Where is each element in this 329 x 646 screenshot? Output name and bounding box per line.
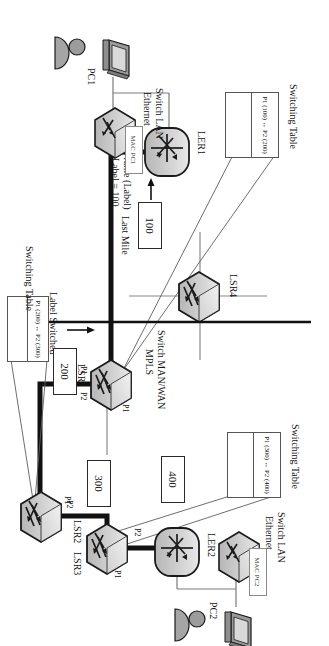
node-label-lsr3: LSR3 xyxy=(72,552,83,575)
frame-label-200: 200 xyxy=(53,348,77,395)
annotation-lsp-1: Label Switched xyxy=(48,292,59,354)
port-label-lsr3-p2: P2 xyxy=(132,528,143,536)
switching-table-row: P1 (100) ↔ P2 (200) xyxy=(252,93,279,157)
switching-table-row: P1 (300) ↔ P2 (400) xyxy=(254,433,281,497)
node-label-lsr2: LSR2 xyxy=(72,520,83,543)
switching-table-lsr3: P1 (300) ↔ P2 (400) xyxy=(227,432,281,498)
diagram-canvas: LER1 LER2 LSR1 LSR2 LSR3 LSR4 PC1 PC2 Sw… xyxy=(0,0,329,646)
switching-table-title-lsr3: Switching Table xyxy=(290,424,301,489)
ler2-icon xyxy=(155,528,199,576)
lsr4-icon xyxy=(179,272,219,322)
lsr1-icon xyxy=(91,360,131,410)
zone-label-wan-2: MPLS xyxy=(144,349,155,375)
frame-label-100: 100 xyxy=(138,202,162,249)
pc1-user-icon xyxy=(55,37,85,69)
mac-box-pc2: MAC PC2 xyxy=(249,548,267,596)
pc1-icon xyxy=(103,40,129,79)
switching-table-title-lsr1: Switching Table xyxy=(288,84,299,149)
zone-label-lan-top-2: Ethernet xyxy=(264,516,275,550)
frame-label-arrow-icon xyxy=(148,178,155,200)
port-label-lsr1-p1: P1 xyxy=(78,366,89,374)
port-label-lsr2-p2: P2 xyxy=(64,500,75,508)
node-label-lsr4: LSR4 xyxy=(228,274,239,297)
frame-label-400: 400 xyxy=(161,456,185,503)
switching-table-lsr1: P1 (100) ↔ P2 (200) xyxy=(225,92,279,158)
zone-label-lan-bottom-2: Ethernet xyxy=(142,92,153,126)
lsp-arrow-icon xyxy=(67,327,95,334)
pc2-user-icon xyxy=(175,609,205,641)
zone-label-lan-bottom-1: Switch LAN xyxy=(154,88,165,139)
annotation-frame-label-2: Label = 100 xyxy=(110,158,121,206)
node-label-pc2: PC2 xyxy=(208,602,219,619)
ler1-icon xyxy=(145,128,189,176)
diagram-stage: LER1 LER2 LSR1 LSR2 LSR3 LSR4 PC1 PC2 Sw… xyxy=(0,0,329,646)
switching-table-title-lsr2: Switching Table xyxy=(24,246,35,311)
switching-table-row xyxy=(226,93,252,157)
lsr3-icon xyxy=(87,524,127,574)
lsr2-icon xyxy=(21,492,61,542)
port-label-lsr1-uplink: P1 xyxy=(120,404,131,412)
node-label-ler2: LER2 xyxy=(206,533,217,557)
node-label-ler1: LER1 xyxy=(196,131,207,155)
frame-label-300: 300 xyxy=(87,460,111,507)
switching-table-row xyxy=(228,433,254,497)
zone-label-wan-1: Switch MAN/WAN xyxy=(156,330,167,409)
port-label-lsr1-p2: P2 xyxy=(78,392,89,400)
annotation-last-mile: Last Mile xyxy=(120,216,131,255)
port-label-lsr3-p1: P1 xyxy=(112,570,123,578)
zone-label-lan-top-1: Switch LAN xyxy=(276,512,287,563)
mac-box-pc1: MAC PC1 xyxy=(125,126,143,174)
node-label-pc1: PC1 xyxy=(86,68,97,85)
pc2-icon xyxy=(225,612,251,646)
